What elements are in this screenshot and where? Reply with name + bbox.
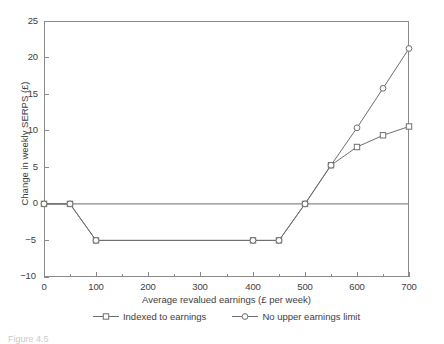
circle-marker-icon [232,312,258,321]
legend-entry-indexed-to-earnings[interactable]: Indexed to earnings [93,311,206,322]
x-tick-label-200: 200 [128,282,168,292]
x-tick-label-600: 600 [337,282,377,292]
x-tick-label-300: 300 [180,282,220,292]
chart-legend: Indexed to earnings No upper earnings li… [44,311,409,322]
x-tick-label-100: 100 [76,282,116,292]
square-marker-icon [93,312,119,321]
legend-label-indexed-to-earnings: Indexed to earnings [123,311,206,322]
x-axis-label: Average revalued earnings (£ per week) [44,294,409,305]
chart-figure: 25 20 15 10 5 0 −5 −10 0 100 200 300 400… [0,0,444,344]
x-tick-label-700: 700 [389,282,429,292]
x-tick-label-0: 0 [24,282,64,292]
y-axis-label: Change in weekly SERPS (£) [19,16,30,272]
x-tick-label-500: 500 [285,282,325,292]
legend-label-no-upper-earnings-limit: No upper earnings limit [262,311,360,322]
x-tick-label-400: 400 [233,282,273,292]
figure-caption: Figure 4.5 [8,334,49,344]
y-tick-label-neg10: −10 [0,271,36,281]
plot-area [44,21,409,277]
legend-entry-no-upper-earnings-limit[interactable]: No upper earnings limit [232,311,360,322]
